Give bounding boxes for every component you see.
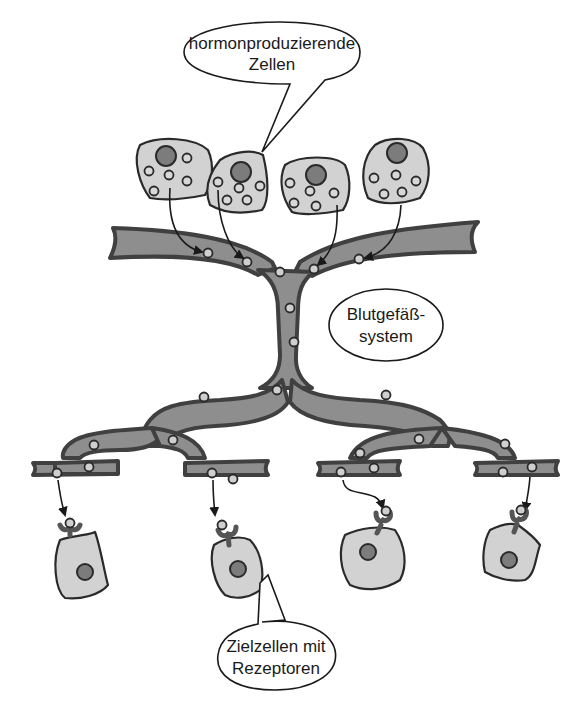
producing-cell-4: [363, 139, 428, 203]
producing-cells-callout: hormonproduzierende Zellen: [184, 22, 360, 152]
delivery-arrows: [58, 477, 530, 515]
blood-vessel-callout: Blutgefäß- system: [329, 289, 443, 361]
blood-vessel-label-line2: system: [359, 327, 413, 346]
endocrine-system-diagram: hormonproduzierende Zellen: [0, 0, 576, 707]
target-cell-1: [55, 519, 108, 599]
target-cell-2: [212, 521, 263, 598]
producing-cells-label-line1: hormonproduzierende: [189, 34, 355, 53]
blood-vessel-system: [33, 222, 558, 475]
blood-vessel-label-line1: Blutgefäß-: [347, 305, 425, 324]
target-cell-4: [483, 506, 540, 581]
producing-cell-1: [137, 139, 212, 199]
producing-cell-3: [281, 158, 349, 215]
producing-cells-label-line2: Zellen: [249, 55, 295, 74]
producing-cell-2: [207, 152, 267, 213]
target-cell-3: [341, 507, 405, 590]
target-cells-label-line2: Rezeptoren: [232, 659, 320, 678]
target-cells-label-line1: Zielzellen mit: [226, 637, 325, 656]
